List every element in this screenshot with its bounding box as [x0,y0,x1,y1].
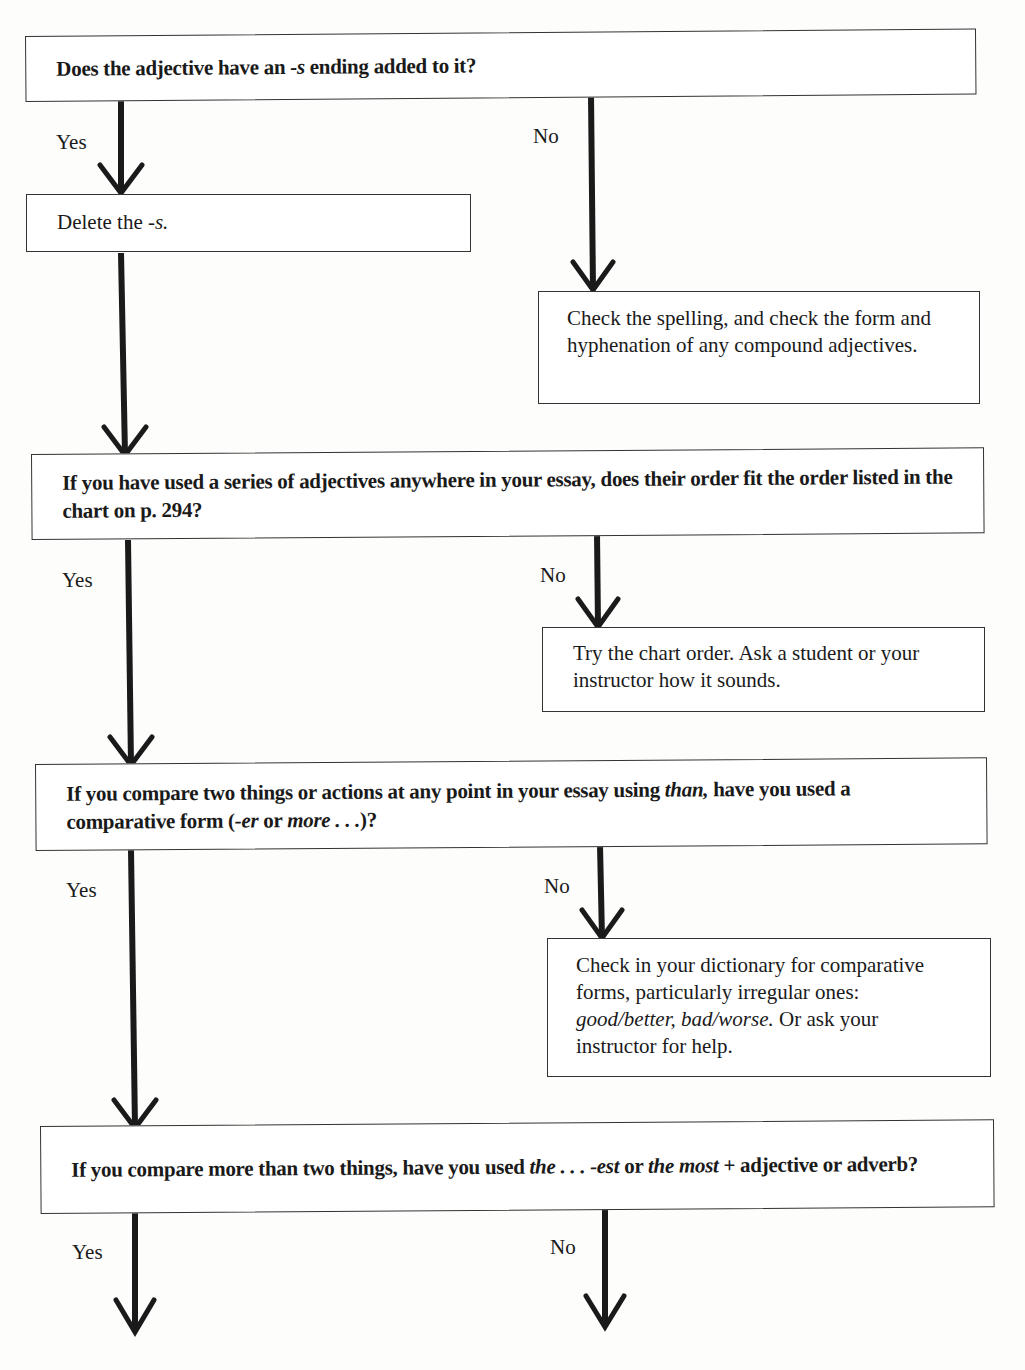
q1-yes-label: Yes [56,130,87,155]
arrow-delete-to-q2 [104,253,146,455]
arrow-q2-no [578,533,618,627]
question-box-2: If you have used a series of adjectives … [31,447,985,540]
question-box-1: Does the adjective have an -s ending add… [25,29,976,102]
question-box-3: If you compare two things or actions at … [35,757,988,851]
q3-yes-label: Yes [66,878,97,903]
action-delete-s: Delete the -s. [26,194,471,252]
q4-no-label: No [550,1235,576,1260]
question-box-4: If you compare more than two things, hav… [40,1119,995,1214]
q4-yes-label: Yes [72,1240,103,1265]
arrow-q4-yes [116,1212,154,1332]
arrow-q4-no [586,1207,624,1327]
arrow-q1-yes [100,100,142,193]
arrow-q2-yes [110,540,152,765]
action-check-spelling: Check the spelling, and check the form a… [538,291,980,404]
q2-no-label: No [540,563,566,588]
q3-no-label: No [544,874,570,899]
q2-yes-label: Yes [62,568,93,593]
question-2-text: If you have used a series of adjectives … [62,463,953,525]
arrow-q1-no [573,95,613,290]
question-3-text: If you compare two things or actions at … [66,773,956,835]
arrow-q3-yes [114,850,156,1128]
action-check-dictionary: Check in your dictionary for comparative… [547,938,991,1077]
action-try-chart-order: Try the chart order. Ask a student or yo… [542,627,985,712]
question-4-text: If you compare more than two things, hav… [71,1150,918,1184]
question-1-text: Does the adjective have an -s ending add… [56,51,476,82]
q1-no-label: No [533,124,559,149]
arrow-q3-no [582,845,622,938]
